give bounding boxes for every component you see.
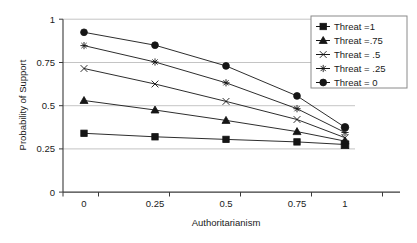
line-chart: 1 0.75 0.5 0.25 0 0 0.25 0.5 0.75 1 Auth…	[0, 0, 417, 243]
data-point-marker	[152, 42, 159, 49]
x-axis-title: Authoritarianism	[192, 217, 261, 228]
legend-label: Threat =.75	[334, 35, 383, 46]
y-tick-label-1: 1	[50, 14, 55, 25]
legend-label: Threat = .25	[334, 63, 386, 74]
y-tick-label-0.75: 0.75	[37, 57, 56, 68]
y-tick-label-0: 0	[50, 187, 55, 198]
x-tick-label-0.25: 0.25	[146, 198, 165, 209]
y-tick-label-0.5: 0.5	[42, 100, 55, 111]
x-tick-label-0.5: 0.5	[219, 198, 232, 209]
data-point-marker	[341, 124, 349, 132]
star-icon	[320, 65, 327, 72]
chart-legend[interactable]: Threat =1 Threat =.75 Threat = .5	[311, 16, 407, 88]
data-point-marker	[223, 63, 230, 70]
y-tick-label-0.25: 0.25	[37, 143, 56, 154]
y-axis-title: Probability of Support	[17, 59, 28, 150]
chart-container: 1 0.75 0.5 0.25 0 0 0.25 0.5 0.75 1 Auth…	[0, 0, 417, 243]
data-point-marker	[152, 134, 158, 140]
square-icon	[320, 23, 326, 29]
data-point-marker	[222, 79, 229, 86]
circle-icon	[320, 79, 327, 86]
x-tick-label-0.75: 0.75	[288, 198, 307, 209]
legend-label: Threat = 0	[334, 77, 378, 88]
data-point-marker	[293, 105, 300, 112]
legend-label: Threat =1	[334, 21, 375, 32]
data-point-marker	[81, 130, 87, 136]
legend-label: Threat = .5	[334, 49, 380, 60]
x-tick-label-1: 1	[342, 198, 347, 209]
data-point-marker	[294, 139, 300, 145]
data-point-marker	[151, 58, 158, 65]
x-tick-label-0: 0	[81, 198, 86, 209]
data-point-marker	[223, 136, 229, 142]
data-point-marker	[80, 42, 87, 49]
data-point-marker	[81, 29, 88, 36]
data-point-marker	[294, 93, 301, 100]
